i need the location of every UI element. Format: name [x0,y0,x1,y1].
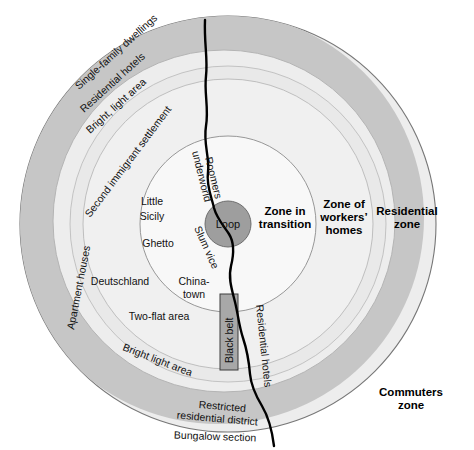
svg-text:homes: homes [325,224,362,236]
label-chinatown-line1: China- [179,275,210,287]
svg-text:Residential: Residential [376,205,437,217]
svg-text:zone: zone [398,399,424,411]
burgess-concentric-zone-diagram: Loop Zone in transition Zone of workers’… [0,0,474,450]
label-black-belt: Black belt [223,317,235,363]
label-little-sicily-line2: Sicily [140,210,165,222]
svg-text:Zone in: Zone in [265,205,306,217]
commuters-zone-label: Commuters zone [379,386,443,411]
label-bungalow-section: Bungalow section [174,429,257,444]
svg-text:Commuters: Commuters [379,386,443,398]
svg-text:workers’: workers’ [319,211,367,223]
label-two-flat-area: Two-flat area [129,310,190,322]
loop-label: Loop [216,218,240,230]
label-little-sicily-line1: Little [141,195,163,207]
label-chinatown-line2: town [183,288,205,300]
svg-text:zone: zone [394,218,420,230]
svg-text:Zone of: Zone of [323,198,365,210]
label-ghetto: Ghetto [142,237,174,249]
label-deutschland: Deutschland [91,275,150,287]
zone-in-transition-label: Zone in transition [259,205,311,230]
svg-text:transition: transition [259,218,311,230]
zone-of-workers-homes-label: Zone of workers’ homes [319,198,367,236]
